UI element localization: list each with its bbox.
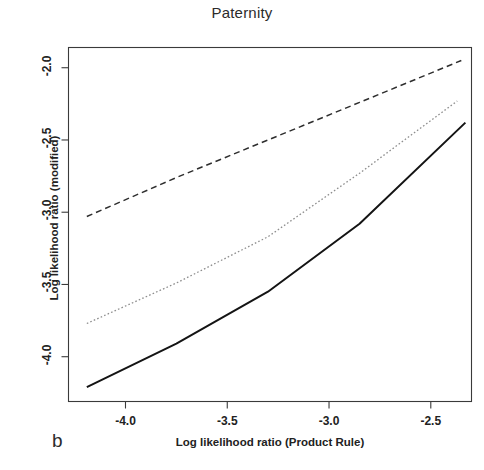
x-tick-label: -3.0 bbox=[307, 414, 351, 428]
chart-title: Paternity bbox=[0, 4, 484, 21]
x-axis-label: Log likelihood ratio (Product Rule) bbox=[68, 436, 472, 448]
series-line-lower-solid bbox=[87, 123, 466, 387]
y-tick-label: -2.0 bbox=[40, 44, 54, 88]
y-axis-ticks bbox=[62, 68, 69, 357]
x-tick-label: -4.0 bbox=[103, 414, 147, 428]
x-axis-ticks bbox=[125, 402, 430, 409]
y-tick-label: -3.5 bbox=[40, 260, 54, 304]
panel-label: b bbox=[52, 430, 63, 452]
y-tick-label: -3.0 bbox=[40, 188, 54, 232]
series-line-middle-dotted bbox=[87, 101, 457, 324]
plot-area bbox=[0, 0, 484, 470]
data-series-group bbox=[87, 61, 466, 388]
y-tick-label: -4.0 bbox=[40, 333, 54, 377]
x-tick-label: -2.5 bbox=[409, 414, 453, 428]
x-tick-label: -3.5 bbox=[205, 414, 249, 428]
series-line-upper-dashed bbox=[87, 61, 462, 217]
chart-figure: Paternity Log likelihood ratio (modified… bbox=[0, 0, 484, 470]
plot-frame bbox=[69, 48, 472, 402]
y-tick-label: -2.5 bbox=[40, 116, 54, 160]
